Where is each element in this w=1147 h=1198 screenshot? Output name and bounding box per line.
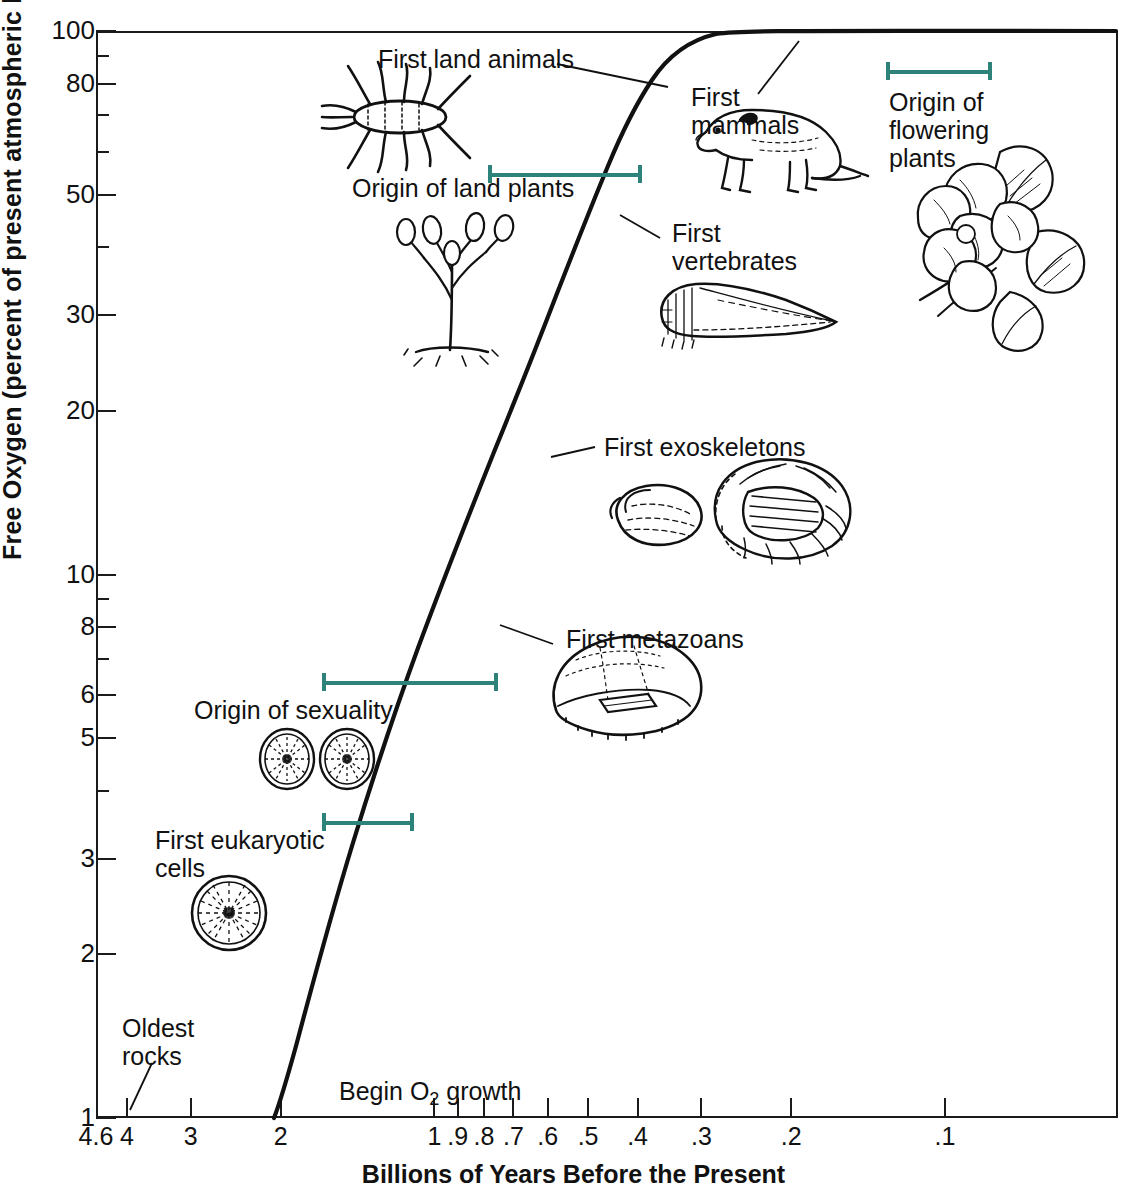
begin-o2-growth-suffix: growth (439, 1077, 521, 1105)
y-tick-label: 20 (66, 397, 95, 423)
range-bar-line (322, 821, 414, 825)
y-tick-label: 50 (66, 181, 95, 207)
x-tick-label: .4 (627, 1124, 648, 1149)
range-bar-origin-flowering-plants (886, 62, 992, 80)
annotation-origin-land-plants: Origin of land plants (352, 174, 574, 202)
y-tick-label: 100 (52, 17, 95, 43)
y-tick-label: 5 (81, 724, 95, 750)
y-axis-title: Free Oxygen (percent of present atmosphe… (0, 0, 27, 560)
x-tick-label: .8 (473, 1124, 494, 1149)
range-bar-cap-right (638, 165, 642, 183)
x-tick-label: .5 (578, 1124, 599, 1149)
y-tick-label: 80 (66, 70, 95, 96)
o2-subscript: 2 (429, 1089, 439, 1109)
y-tick-label: 3 (81, 845, 95, 871)
range-bar-line (322, 681, 498, 685)
range-bar-line (886, 70, 992, 74)
annotation-first-eukaryotic-cells: First eukaryotic cells (155, 826, 324, 882)
annotation-first-land-animals: First land animals (378, 45, 574, 73)
x-tick-label: 1 (427, 1124, 441, 1149)
x-tick-label: 2 (274, 1124, 288, 1149)
y-tick-label: 30 (66, 301, 95, 327)
oxygen-history-chart: Free Oxygen (percent of present atmosphe… (0, 0, 1147, 1198)
y-tick-label: 8 (81, 613, 95, 639)
annotation-begin-o2-growth: Begin O2 growth (339, 1049, 521, 1109)
range-bar-first-eukaryotic-cells (322, 813, 414, 831)
x-tick-label: .6 (537, 1124, 558, 1149)
begin-o2-growth-text: Begin O (339, 1077, 429, 1105)
x-tick-label: .1 (935, 1124, 956, 1149)
x-tick-label: .2 (781, 1124, 802, 1149)
y-tick-label: 2 (81, 940, 95, 966)
x-tick-label: 3 (184, 1124, 198, 1149)
range-bar-cap-right (988, 62, 992, 80)
annotation-first-vertebrates: First vertebrates (672, 219, 797, 275)
range-bar-cap-left (322, 673, 326, 691)
annotation-origin-flowering-plants: Origin of flowering plants (889, 88, 989, 172)
x-tick-label: 4 (120, 1124, 134, 1149)
range-bar-cap-right (410, 813, 414, 831)
x-axis-title: Billions of Years Before the Present (0, 1160, 1147, 1189)
annotation-first-mammals: First mammals (691, 83, 799, 139)
annotation-origin-sexuality: Origin of sexuality (194, 696, 393, 724)
x-tick-label: .3 (691, 1124, 712, 1149)
annotation-first-exoskeletons: First exoskeletons (604, 433, 805, 461)
range-bar-cap-left (886, 62, 890, 80)
x-tick-label: .7 (503, 1124, 524, 1149)
range-bar-cap-right (494, 673, 498, 691)
annotation-first-metazoans: First metazoans (566, 625, 744, 653)
x-tick-label: .9 (447, 1124, 468, 1149)
annotation-oldest-rocks: Oldest rocks (122, 1014, 194, 1070)
y-tick-label: 6 (81, 681, 95, 707)
plot-frame (96, 31, 1118, 1118)
range-bar-origin-sexuality (322, 673, 498, 691)
x-tick-label: 4.6 (79, 1124, 114, 1149)
y-tick-label: 10 (66, 561, 95, 587)
